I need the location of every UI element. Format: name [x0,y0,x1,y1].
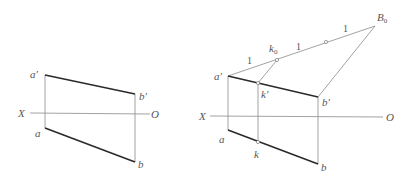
left-figure: a′ b′ a b X O [17,68,159,170]
left-line-a-b [45,128,135,162]
right-xo-axis [210,116,383,117]
right-label-X: X [198,110,207,122]
left-line-a-prime-b-prime [45,75,135,94]
right-figure: 1 1 1 a′ b′ k′ a k b X O k0 B0 [198,11,394,173]
left-xo-axis [30,113,150,114]
point-k-prime [256,81,259,84]
segment-label-1b: 1 [296,41,301,52]
left-label-a: a [35,127,41,139]
right-label-a-prime: a′ [214,70,223,82]
left-label-X: X [17,107,26,119]
aux-line-k0-k-prime [258,60,277,83]
right-label-k-prime: k′ [261,88,269,100]
right-line-a-b [228,130,318,164]
left-label-b-prime: b′ [139,90,148,102]
aux-line-B0-b-prime [318,26,375,97]
right-label-k0: k0 [269,42,278,56]
left-label-O: O [151,108,159,120]
right-label-a: a [219,133,225,145]
left-label-b: b [138,158,144,170]
point-k [256,140,259,143]
left-label-a-prime: a′ [30,68,39,80]
point-k0 [275,58,278,61]
descriptive-geometry-diagram: a′ b′ a b X O 1 1 1 a′ b′ [0,0,411,181]
B0-subscript: 0 [384,17,388,25]
right-label-O: O [386,111,394,123]
k0-subscript: 0 [274,48,278,56]
segment-label-1a: 1 [247,55,252,66]
aux-line-a-prime-B0 [228,26,375,76]
segment-label-1c: 1 [343,23,348,34]
right-label-B0: B0 [377,11,388,25]
right-label-k: k [254,148,260,160]
right-line-a-prime-b-prime [228,76,318,97]
right-label-b-prime: b′ [322,96,331,108]
right-label-b: b [321,161,327,173]
point-division-2 [324,40,327,43]
